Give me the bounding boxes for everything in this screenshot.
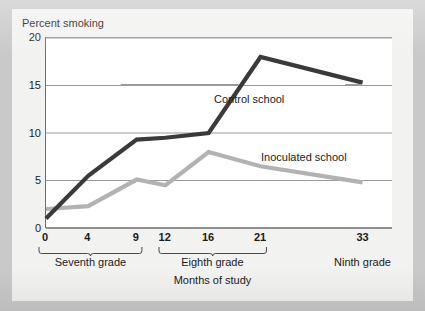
series-line-control-school bbox=[46, 57, 363, 219]
grade-bracket bbox=[159, 247, 266, 256]
series-annotation-inoculated-school: Inoculated school bbox=[261, 151, 347, 163]
plot-area bbox=[45, 37, 392, 228]
x-tick-label: 12 bbox=[159, 231, 171, 243]
y-tick-label: 5 bbox=[15, 174, 41, 186]
plot-svg bbox=[46, 38, 392, 228]
x-tick-label: 16 bbox=[202, 231, 214, 243]
x-tick-label: 21 bbox=[254, 231, 266, 243]
figure-frame: Percent smoking 05101520 04912162133 Sev… bbox=[0, 0, 425, 311]
x-tick-label: 33 bbox=[356, 231, 368, 243]
chart-card: Percent smoking 05101520 04912162133 Sev… bbox=[12, 9, 413, 301]
grade-label: Eighth grade bbox=[158, 256, 267, 268]
grade-bracket-graphic bbox=[38, 247, 143, 256]
grade-brackets: Seventh gradeEighth gradeNinth grade bbox=[45, 247, 392, 275]
x-axis-title: Months of study bbox=[12, 274, 413, 286]
y-tick-label: 0 bbox=[15, 222, 41, 234]
y-tick-label: 15 bbox=[15, 79, 41, 91]
y-axis-tick-labels: 05101520 bbox=[12, 37, 41, 228]
grade-bracket-graphic bbox=[158, 247, 267, 256]
grade-label: Ninth grade bbox=[330, 256, 396, 268]
grade-bracket bbox=[39, 247, 142, 256]
y-tick-label: 20 bbox=[15, 31, 41, 43]
grade-label: Seventh grade bbox=[38, 256, 143, 268]
x-tick-label: 0 bbox=[42, 231, 48, 243]
y-tick-label: 10 bbox=[15, 127, 41, 139]
y-axis-title: Percent smoking bbox=[22, 17, 104, 29]
x-axis-tick-labels: 04912162133 bbox=[45, 231, 392, 247]
x-tick-label: 4 bbox=[84, 231, 90, 243]
x-tick-label: 9 bbox=[133, 231, 139, 243]
series-annotation-control-school: Control school bbox=[214, 93, 284, 105]
